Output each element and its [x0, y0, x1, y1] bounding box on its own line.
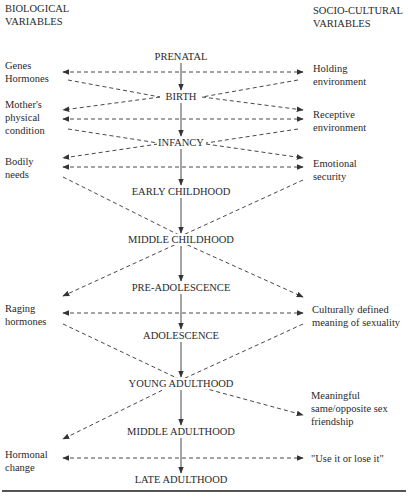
label-line: environment [313, 121, 366, 134]
stage-label: PRE-ADOLESCENCE [131, 282, 232, 293]
label-line: Meaningful [311, 389, 388, 402]
label-line: hormones [5, 315, 46, 328]
label-line: condition [5, 124, 45, 137]
stage-label: EARLY CHILDHOOD [131, 186, 232, 197]
stage-label: PRENATAL [154, 51, 209, 62]
label-line: friendship [311, 415, 388, 428]
soc-holding-environment: Holding environment [313, 62, 366, 88]
dashed-birth-mother [63, 97, 160, 110]
dashed-hormones-birth [68, 80, 160, 97]
stage-label: ADOLESCENCE [142, 330, 220, 341]
label-line: security [313, 170, 357, 183]
label-line: Bodily [5, 155, 34, 168]
stage-label: BIRTH [165, 91, 198, 102]
stage-label: MIDDLE CHILDHOOD [127, 234, 235, 245]
stage-prenatal: PRENATAL [154, 51, 209, 63]
dashed-young-friendship [196, 386, 303, 415]
stage-middle-childhood: MIDDLE CHILDHOOD [127, 234, 235, 246]
stage-late-adulthood: LATE ADULTHOOD [134, 474, 229, 486]
label-line: same/opposite sex [311, 402, 388, 415]
soc-emotional-security: Emotional security [313, 157, 357, 183]
label-line: Mother's [5, 98, 45, 111]
dashed-infancy-emotional [206, 144, 303, 158]
stage-label: INFANCY [157, 137, 205, 148]
label-line: Raging [5, 302, 46, 315]
label-line: Holding [313, 62, 366, 75]
bio-hormonal-change: Hormonal change [5, 448, 48, 474]
dashed-birth-receptive [202, 97, 303, 110]
label-line: Genes [5, 59, 49, 72]
label-line: Hormones [5, 72, 49, 85]
label-line: Culturally defined [312, 303, 400, 316]
bottom-rule [2, 490, 406, 492]
stage-middle-adulthood: MIDDLE ADULTHOOD [126, 426, 236, 438]
label-line: environment [313, 75, 366, 88]
label-line: Receptive [313, 108, 366, 121]
label-line: physical [5, 111, 45, 124]
soc-culturally-defined-sexuality: Culturally defined meaning of sexuality [312, 303, 400, 329]
stage-label: MIDDLE ADULTHOOD [126, 426, 236, 437]
soc-meaningful-friendship: Meaningful same/opposite sex friendship [311, 389, 388, 428]
label-line: "Use it or lose it" [311, 452, 384, 465]
soc-receptive-environment: Receptive environment [313, 108, 366, 134]
stage-adolescence: ADOLESCENCE [142, 330, 220, 342]
bio-mothers-condition: Mother's physical condition [5, 98, 45, 137]
stage-early-childhood: EARLY CHILDHOOD [131, 186, 232, 198]
dashed-holding-birth [202, 80, 298, 97]
soc-use-it-or-lose-it: "Use it or lose it" [311, 452, 384, 465]
stage-pre-adolescence: PRE-ADOLESCENCE [131, 282, 232, 294]
dashed-receptive-infancy [206, 129, 298, 143]
dashed-infancy-bodily [63, 144, 158, 158]
label-line: needs [5, 168, 34, 181]
stage-birth: BIRTH [165, 91, 198, 103]
stage-label: YOUNG ADULTHOOD [128, 378, 235, 389]
label-line: meaning of sexuality [312, 316, 400, 329]
stage-infancy: INFANCY [157, 137, 205, 149]
bio-genes-hormones: Genes Hormones [5, 59, 49, 85]
label-line: Emotional [313, 157, 357, 170]
label-line: Hormonal [5, 448, 48, 461]
bio-bodily-needs: Bodily needs [5, 155, 34, 181]
stage-young-adulthood: YOUNG ADULTHOOD [128, 378, 235, 390]
stage-label: LATE ADULTHOOD [134, 474, 229, 485]
bio-raging-hormones: Raging hormones [5, 302, 46, 328]
label-line: change [5, 461, 48, 474]
dashed-condition-infancy [68, 129, 158, 143]
